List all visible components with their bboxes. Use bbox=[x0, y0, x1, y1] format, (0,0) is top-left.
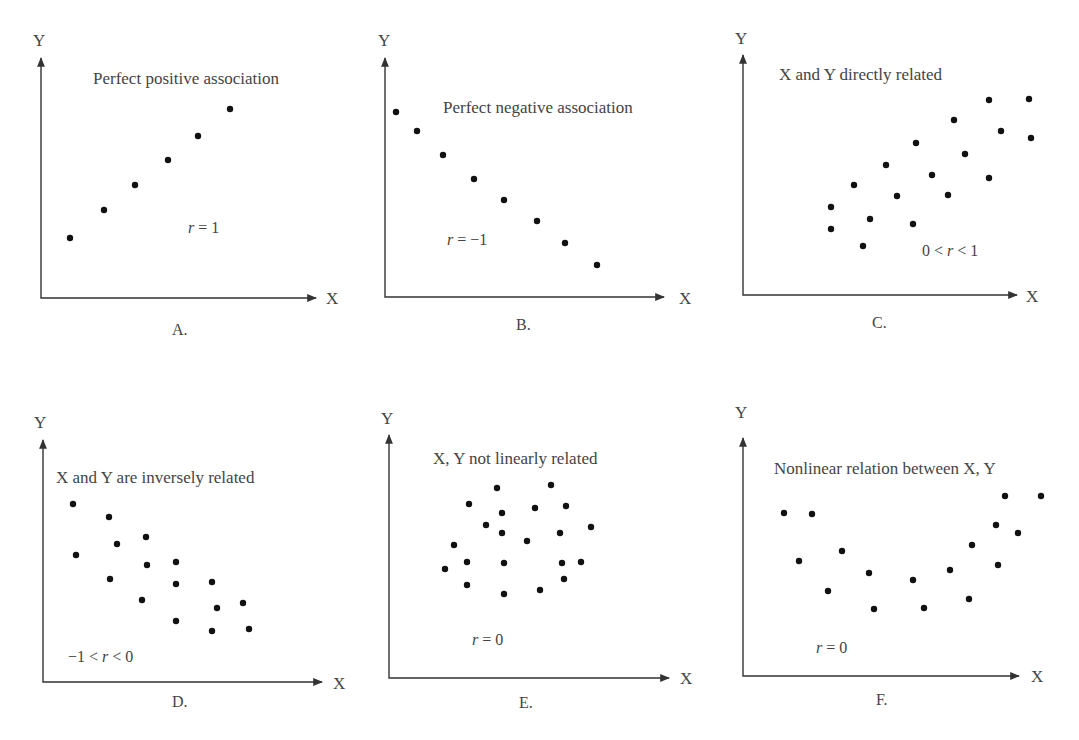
panel-label: F. bbox=[876, 691, 888, 708]
data-point bbox=[969, 542, 975, 548]
data-points bbox=[442, 482, 594, 597]
data-point bbox=[993, 522, 999, 528]
y-axis-label: Y bbox=[378, 31, 390, 50]
data-point bbox=[929, 172, 935, 178]
y-axis-label: Y bbox=[735, 29, 747, 48]
x-axis-label: X bbox=[680, 669, 692, 688]
data-point bbox=[559, 560, 565, 566]
y-axis-label: Y bbox=[34, 413, 46, 432]
data-point bbox=[781, 510, 787, 516]
data-points bbox=[828, 96, 1034, 249]
data-point bbox=[998, 128, 1004, 134]
data-point bbox=[139, 597, 145, 603]
panel-title: X, Y not linearly related bbox=[433, 449, 598, 468]
data-point bbox=[114, 541, 120, 547]
axes bbox=[743, 55, 1017, 295]
data-point bbox=[562, 240, 568, 246]
x-axis-label: X bbox=[1026, 287, 1038, 306]
data-point bbox=[1026, 96, 1032, 102]
data-points bbox=[393, 109, 600, 268]
data-point bbox=[871, 606, 877, 612]
panel-title: Nonlinear relation between X, Y bbox=[774, 459, 996, 478]
data-point bbox=[825, 588, 831, 594]
data-point bbox=[101, 207, 107, 213]
r-annotation: r = 0 bbox=[816, 639, 847, 656]
data-points bbox=[70, 501, 252, 634]
panel-c: Y X X and Y directly related 0 < r < 1 C… bbox=[735, 29, 1038, 331]
data-point bbox=[883, 162, 889, 168]
data-point bbox=[986, 175, 992, 181]
data-point bbox=[499, 530, 505, 536]
data-point bbox=[962, 151, 968, 157]
data-point bbox=[67, 235, 73, 241]
data-point bbox=[966, 596, 972, 602]
data-point bbox=[563, 503, 569, 509]
data-point bbox=[951, 117, 957, 123]
data-point bbox=[414, 128, 420, 134]
data-point bbox=[442, 566, 448, 572]
data-point bbox=[466, 501, 472, 507]
panel-d: Y X X and Y are inversely related −1 < r… bbox=[34, 413, 345, 710]
data-point bbox=[143, 534, 149, 540]
data-point bbox=[494, 485, 500, 491]
data-point bbox=[246, 626, 252, 632]
x-axis-label: X bbox=[1031, 667, 1043, 686]
data-point bbox=[913, 140, 919, 146]
data-point bbox=[501, 591, 507, 597]
correlation-figure: Y X Perfect positive association r = 1 A… bbox=[0, 0, 1079, 740]
data-point bbox=[501, 197, 507, 203]
data-point bbox=[532, 505, 538, 511]
data-point bbox=[945, 192, 951, 198]
data-point bbox=[471, 176, 477, 182]
data-point bbox=[227, 106, 233, 112]
panel-label: A. bbox=[172, 321, 188, 338]
data-point bbox=[173, 581, 179, 587]
data-point bbox=[910, 221, 916, 227]
data-point bbox=[588, 524, 594, 530]
x-axis-label: X bbox=[326, 289, 338, 308]
data-point bbox=[548, 482, 554, 488]
data-point bbox=[796, 558, 802, 564]
data-point bbox=[1038, 493, 1044, 499]
panel-e: Y X X, Y not linearly related r = 0 E. bbox=[381, 409, 692, 711]
data-point bbox=[209, 579, 215, 585]
data-point bbox=[537, 587, 543, 593]
panel-label: D. bbox=[172, 693, 188, 710]
data-point bbox=[195, 133, 201, 139]
data-point bbox=[1002, 493, 1008, 499]
data-point bbox=[866, 570, 872, 576]
data-point bbox=[910, 577, 916, 583]
data-point bbox=[451, 542, 457, 548]
data-point bbox=[986, 97, 992, 103]
data-point bbox=[557, 530, 563, 536]
r-annotation: r = 1 bbox=[188, 219, 219, 236]
data-point bbox=[132, 182, 138, 188]
data-point bbox=[921, 605, 927, 611]
x-axis-label: X bbox=[333, 674, 345, 693]
data-point bbox=[809, 511, 815, 517]
data-point bbox=[165, 157, 171, 163]
data-point bbox=[464, 559, 470, 565]
data-point bbox=[499, 510, 505, 516]
panel-title: X and Y directly related bbox=[779, 65, 943, 84]
y-axis-label: Y bbox=[33, 31, 45, 50]
x-axis-label: X bbox=[679, 289, 691, 308]
data-point bbox=[501, 560, 507, 566]
panel-title: X and Y are inversely related bbox=[56, 468, 255, 487]
data-points bbox=[781, 493, 1044, 612]
data-point bbox=[594, 262, 600, 268]
data-point bbox=[464, 582, 470, 588]
data-point bbox=[524, 538, 530, 544]
data-point bbox=[828, 204, 834, 210]
panel-f: Y X Nonlinear relation between X, Y r = … bbox=[735, 403, 1044, 708]
data-point bbox=[483, 522, 489, 528]
panel-title: Perfect positive association bbox=[93, 69, 280, 88]
panel-label: B. bbox=[516, 316, 531, 333]
data-point bbox=[1015, 530, 1021, 536]
panel-label: C. bbox=[872, 314, 887, 331]
data-point bbox=[70, 501, 76, 507]
data-point bbox=[1028, 135, 1034, 141]
y-axis-label: Y bbox=[381, 409, 393, 428]
data-point bbox=[173, 618, 179, 624]
panel-title: Perfect negative association bbox=[443, 98, 633, 117]
